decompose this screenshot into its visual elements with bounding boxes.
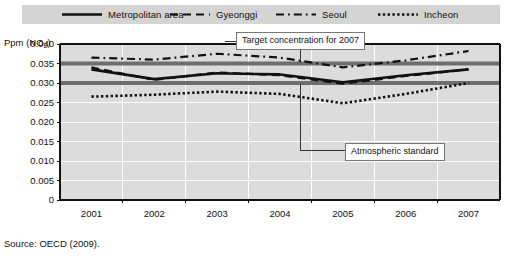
x-axis-tick-label: 2004	[269, 208, 290, 219]
figure-no2-concentration: Metropolitan areaGyeonggiSeoulIncheon Pp…	[0, 0, 514, 266]
y-axis-tick-label: 0.010	[30, 155, 54, 166]
x-axis-tick-label: 2006	[395, 208, 416, 219]
y-axis-tick-label: 0.040	[30, 38, 54, 49]
x-axis-tick-label: 2003	[207, 208, 228, 219]
annotation-atmospheric-standard: Atmospheric standard	[345, 143, 445, 161]
annotation-target-concentration: Target concentration for 2007	[236, 32, 365, 50]
source-note: Source: OECD (2009).	[4, 238, 100, 249]
y-axis-tick-label: 0.015	[30, 136, 54, 147]
y-axis-tick-label: 0.025	[30, 97, 54, 108]
y-axis-tick-label: 0.030	[30, 77, 54, 88]
x-axis-tick-label: 2002	[144, 208, 165, 219]
x-axis-tick-label: 2005	[332, 208, 353, 219]
x-axis-tick-label: 2001	[81, 208, 102, 219]
y-axis-tick-label: 0.035	[30, 58, 54, 69]
y-axis-tick-label: 0.005	[30, 175, 54, 186]
y-axis-tick-label: 0	[49, 194, 54, 205]
y-axis-tick-label: 0.020	[30, 116, 54, 127]
x-axis-tick-label: 2007	[458, 208, 479, 219]
